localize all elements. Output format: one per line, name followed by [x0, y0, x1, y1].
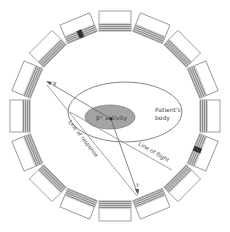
detector	[99, 11, 131, 31]
line-of-response	[47, 85, 137, 196]
activity-label: β⁺ activity	[96, 114, 127, 122]
detector	[10, 100, 30, 132]
detector	[133, 13, 170, 44]
detector	[29, 30, 66, 67]
gamma-label-bottom: γ	[136, 181, 139, 188]
gamma-label-top: γ	[53, 79, 57, 87]
detector	[29, 165, 66, 202]
detector	[12, 134, 43, 171]
detector	[60, 188, 97, 219]
detector	[187, 61, 218, 98]
patient-body-label-2: body	[155, 114, 170, 122]
line-of-flight-label: Line of flight	[137, 141, 171, 165]
detector	[187, 134, 218, 171]
detector	[164, 165, 201, 202]
detector	[164, 30, 201, 67]
detector	[200, 100, 220, 132]
detector	[99, 201, 131, 221]
detector	[133, 188, 170, 219]
detector	[12, 61, 43, 98]
pet-ring-diagram: Patient's body β⁺ activity γ γ Line of r…	[0, 0, 230, 232]
diagram-canvas: Patient's body β⁺ activity γ γ Line of r…	[0, 0, 230, 232]
detector	[60, 13, 97, 44]
patient-body-label: Patient's	[155, 106, 181, 113]
gamma-ray-bottom	[111, 119, 137, 192]
gamma-arrowhead-top	[46, 81, 52, 85]
